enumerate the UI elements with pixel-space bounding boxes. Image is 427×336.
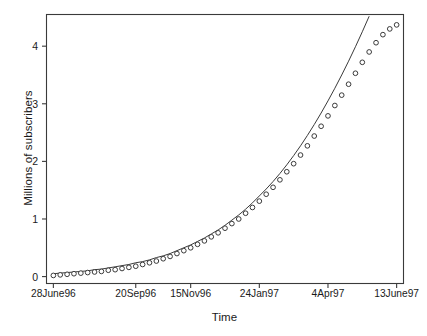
x-tick-label: 24Jan97 [240,288,279,299]
y-axis-title: Millions of subscribers [22,18,38,278]
x-tick-label: 20Sep96 [115,288,156,299]
x-tick-label: 28June96 [31,288,76,299]
chart-background [0,0,427,336]
y-tick-label: 2 [22,155,38,167]
x-tick-label: 15Nov96 [170,288,211,299]
x-tick-label: 4Apr97 [312,288,345,299]
y-tick-label: 1 [22,213,38,225]
x-axis-title: Time [46,311,403,323]
y-tick-label: 0 [22,271,38,283]
plot-canvas [0,0,427,336]
y-tick-label: 3 [22,98,38,110]
x-tick-label: 13June97 [374,288,419,299]
y-tick-label: 4 [22,40,38,52]
chart-figure: Millions of subscribers Time 28June9620S… [0,0,427,336]
